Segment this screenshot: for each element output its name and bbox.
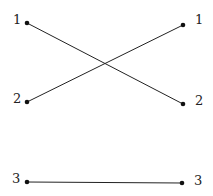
right-node-1 xyxy=(181,23,186,28)
left-node-3 xyxy=(25,180,30,185)
left-node-1 xyxy=(25,21,30,26)
right-label-1: 1 xyxy=(195,12,203,27)
right-node-3 xyxy=(180,181,185,186)
right-label-2: 2 xyxy=(195,93,203,108)
left-label-2: 2 xyxy=(13,91,21,106)
right-label-3: 3 xyxy=(194,173,202,188)
right-node-2 xyxy=(181,102,186,107)
left-label-3: 3 xyxy=(12,171,20,186)
left-node-2 xyxy=(25,100,30,105)
edge-l2-r1 xyxy=(27,25,183,102)
edge-l3-r3 xyxy=(27,182,182,183)
matching-diagram: 1 2 3 1 2 3 xyxy=(0,0,213,196)
left-label-1: 1 xyxy=(13,12,21,27)
